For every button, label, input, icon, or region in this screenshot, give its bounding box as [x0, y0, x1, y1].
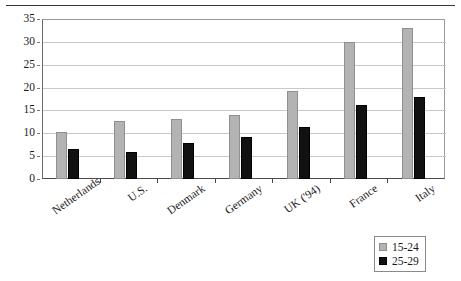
bar-1	[126, 152, 137, 179]
plot-wrap	[42, 19, 445, 179]
bar-0	[171, 119, 182, 179]
y-axis-tick-label: 35	[24, 13, 36, 25]
bar-group	[215, 19, 273, 179]
bar-group	[330, 19, 388, 179]
y-axis-tick-label: 30	[24, 36, 36, 48]
y-axis-tick	[37, 19, 40, 20]
y-axis-tick-label: 5	[29, 150, 35, 162]
bars-layer	[42, 19, 445, 179]
y-axis-tick-label: 15	[24, 105, 36, 117]
legend-label: 15-24	[392, 241, 419, 253]
bar-0	[287, 91, 298, 179]
chart-legend: 15-2425-29	[374, 236, 426, 272]
bar-group	[157, 19, 215, 179]
legend-swatch-icon	[379, 243, 387, 251]
bar-1	[183, 143, 194, 179]
y-axis-tick-label: 20	[24, 82, 36, 94]
y-axis-tick	[37, 179, 40, 180]
y-axis-tick	[37, 156, 40, 157]
bar-1	[241, 137, 252, 180]
bar-0	[56, 132, 67, 179]
legend-item[interactable]: 15-24	[379, 240, 419, 254]
bar-group	[100, 19, 158, 179]
y-axis-tick	[37, 133, 40, 134]
y-axis-tick	[37, 110, 40, 111]
bar-1	[299, 127, 310, 179]
bar-0	[402, 28, 413, 179]
title-divider	[6, 5, 455, 6]
y-axis-tick	[37, 65, 40, 66]
bar-group	[272, 19, 330, 179]
y-axis-tick-label: 25	[24, 59, 36, 71]
bar-0	[114, 121, 125, 179]
legend-swatch-icon	[379, 257, 387, 265]
y-axis-tick	[37, 88, 40, 89]
x-axis-labels: NetherlandsU.S.DenmarkGermanyUK ('94)Fra…	[42, 182, 445, 244]
y-axis: 05101520253035	[0, 19, 40, 179]
chart-figure: 05101520253035 NetherlandsU.S.DenmarkGer…	[0, 0, 461, 281]
y-axis-tick-label: 0	[29, 173, 35, 185]
y-axis-tick	[37, 42, 40, 43]
bar-1	[356, 105, 367, 179]
x-axis-category-label: Germany	[81, 182, 264, 281]
bar-1	[68, 149, 79, 179]
legend-item[interactable]: 25-29	[379, 254, 419, 268]
bar-0	[344, 42, 355, 179]
bar-0	[229, 115, 240, 179]
bar-1	[414, 97, 425, 179]
bar-group	[42, 19, 100, 179]
y-axis-tick-label: 10	[24, 128, 36, 140]
x-axis-category-label: Netherlands	[50, 182, 92, 216]
legend-label: 25-29	[392, 255, 419, 267]
bar-group	[387, 19, 445, 179]
